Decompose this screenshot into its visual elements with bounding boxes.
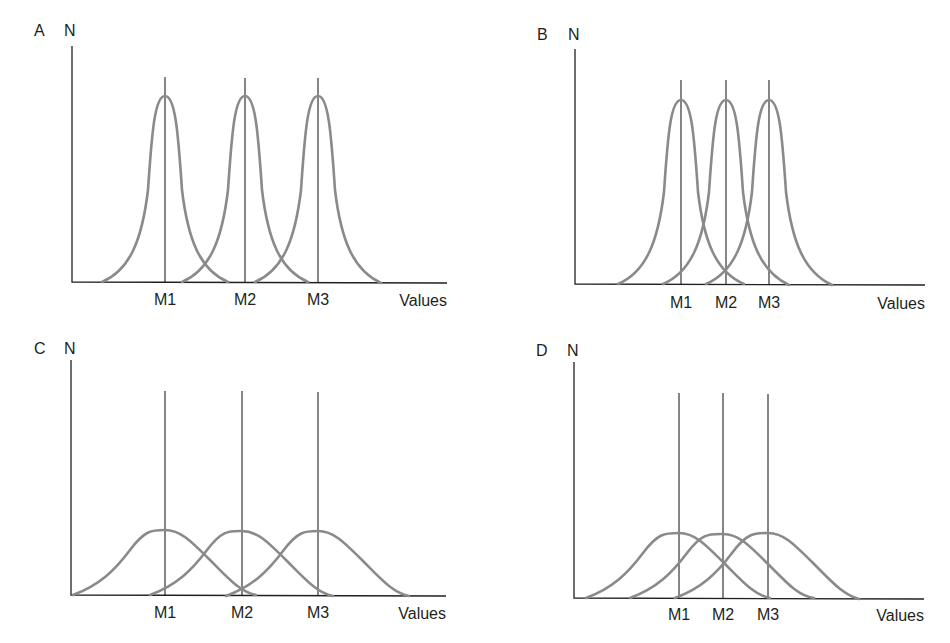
tick-label-m1: M1 — [154, 291, 176, 308]
axes — [71, 360, 446, 596]
y-axis-label: N — [567, 342, 579, 359]
tick-label-m2: M2 — [234, 291, 256, 308]
tick-label-m1: M1 — [154, 604, 176, 621]
panel-a: A N M1 M2 M3 Values — [34, 22, 447, 309]
tick-label-m1: M1 — [670, 294, 692, 311]
distribution-figure: A N M1 M2 M3 Values B N M1 M2 M3 Values … — [0, 0, 950, 643]
axes — [574, 362, 924, 599]
x-axis-label: Values — [877, 295, 925, 312]
y-axis-label: N — [568, 26, 580, 43]
tick-label-m3: M3 — [758, 294, 780, 311]
panel-letter: B — [537, 26, 548, 43]
tick-label-m1: M1 — [668, 606, 690, 623]
tick-label-m3: M3 — [757, 606, 779, 623]
panel-letter: A — [34, 22, 45, 39]
panel-b: B N M1 M2 M3 Values — [537, 26, 925, 312]
x-axis-label: Values — [399, 292, 447, 309]
tick-label-m3: M3 — [307, 291, 329, 308]
y-axis-label: N — [64, 22, 76, 39]
x-axis-label: Values — [398, 605, 446, 622]
tick-label-m2: M2 — [231, 604, 253, 621]
panel-letter: D — [536, 342, 548, 359]
x-axis-label: Values — [876, 607, 924, 624]
axes — [575, 49, 925, 285]
y-axis-label: N — [64, 340, 76, 357]
tick-label-m2: M2 — [712, 606, 734, 623]
panel-c: C N M1 M2 M3 Values — [34, 340, 446, 622]
tick-label-m3: M3 — [307, 604, 329, 621]
panel-d: D N M1 M2 M3 Values — [536, 342, 924, 624]
tick-label-m2: M2 — [715, 294, 737, 311]
panel-letter: C — [34, 340, 46, 357]
